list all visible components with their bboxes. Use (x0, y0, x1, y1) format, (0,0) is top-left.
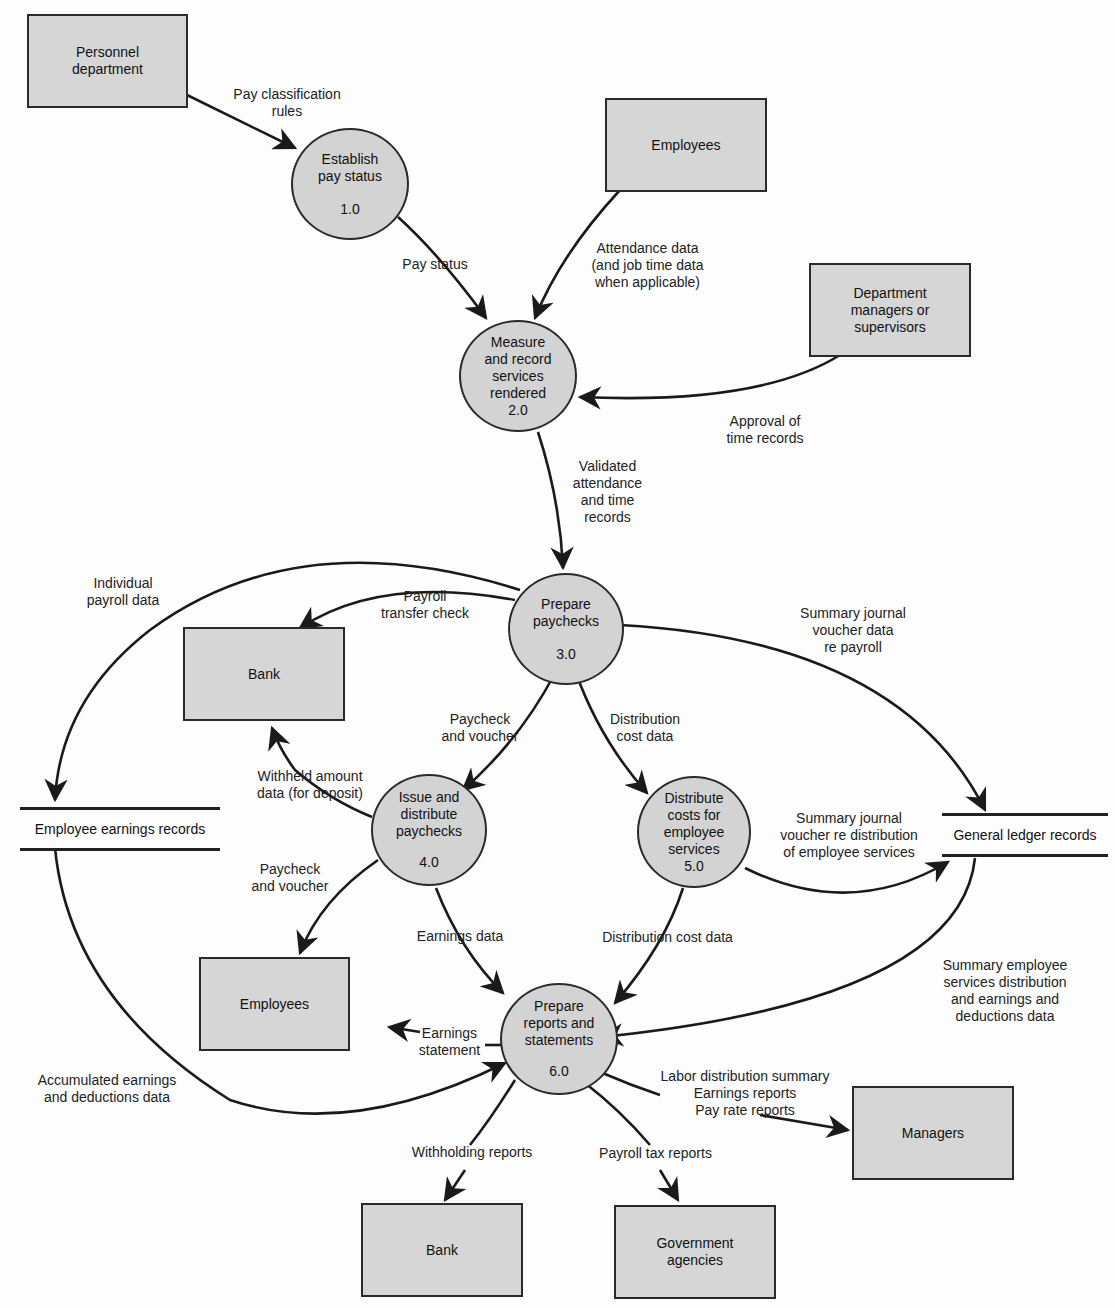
entity-bank-middle[interactable]: Bank (183, 627, 345, 721)
process-measure-record-services[interactable]: Measure and record services rendered 2.0 (459, 320, 577, 432)
flow-label-accumulated: Accumulated earnings and deductions data (22, 1072, 192, 1106)
flow-label-payroll-tax-reports: Payroll tax reports (583, 1145, 728, 1162)
entity-employees-bottom[interactable]: Employees (199, 957, 350, 1051)
process-prepare-reports-statements[interactable]: Prepare reports and statements 6.0 (500, 983, 618, 1095)
entity-label: Employees (651, 137, 720, 154)
flow-label-summary-journal-distribution: Summary journal voucher re distribution … (764, 810, 934, 861)
process-label: Issue and distribute paychecks (396, 789, 462, 840)
entity-employees-top[interactable]: Employees (605, 98, 767, 192)
flow-label-validated: Validated attendance and time records (560, 458, 655, 526)
process-number: 2.0 (508, 402, 527, 419)
entity-label: Government agencies (656, 1235, 733, 1269)
flow-label-paycheck-voucher-2: Paycheck and voucher (240, 861, 340, 895)
entity-managers[interactable]: Managers (852, 1086, 1014, 1180)
flow-label-distribution-cost-2: Distribution cost data (585, 929, 750, 946)
process-number: 3.0 (556, 646, 575, 663)
entity-label: Personnel department (72, 44, 143, 78)
flow-label-earnings-data: Earnings data (405, 928, 515, 945)
flow-label-individual-payroll: Individual payroll data (78, 575, 168, 609)
payroll-data-flow-diagram: Personnel department Employees Departmen… (0, 0, 1115, 1308)
process-label: Prepare paychecks (533, 596, 599, 630)
entity-label: Bank (426, 1242, 458, 1259)
flow-label-earnings-statement: Earnings statement (412, 1025, 487, 1059)
process-issue-distribute-paychecks[interactable]: Issue and distribute paychecks 4.0 (371, 774, 487, 886)
process-number: 6.0 (549, 1063, 568, 1080)
flow-label-summary-employee-services: Summary employee services distribution a… (925, 957, 1085, 1025)
entity-government-agencies[interactable]: Government agencies (614, 1205, 776, 1299)
process-number: 1.0 (340, 201, 359, 218)
entity-personnel-department[interactable]: Personnel department (27, 14, 188, 108)
flow-label-paycheck-voucher-1: Paycheck and voucher (430, 711, 530, 745)
process-number: 4.0 (419, 854, 438, 871)
entity-bank-bottom[interactable]: Bank (361, 1203, 523, 1297)
flow-label-pay-classification: Pay classification rules (222, 86, 352, 120)
entity-label: Department managers or supervisors (851, 285, 930, 336)
flow-label-summary-journal-payroll: Summary journal voucher data re payroll (783, 605, 923, 656)
entity-department-managers[interactable]: Department managers or supervisors (809, 263, 971, 357)
entity-label: Employees (240, 996, 309, 1013)
flow-label-distribution-cost-1: Distribution cost data (595, 711, 695, 745)
process-label: Distribute costs for employee services (664, 790, 725, 858)
process-number: 5.0 (684, 858, 703, 875)
flow-label-approval: Approval of time records (710, 413, 820, 447)
process-prepare-paychecks[interactable]: Prepare paychecks 3.0 (508, 573, 624, 685)
entity-label: Bank (248, 666, 280, 683)
flow-label-pay-status: Pay status (390, 256, 480, 273)
entity-label: Managers (902, 1125, 964, 1142)
store-general-ledger-records[interactable]: General ledger records (942, 813, 1108, 857)
process-label: Prepare reports and statements (524, 998, 595, 1049)
flow-label-attendance: Attendance data (and job time data when … (575, 240, 720, 291)
flow-label-withheld: Withheld amount data (for deposit) (245, 768, 375, 802)
store-employee-earnings-records[interactable]: Employee earnings records (20, 807, 220, 851)
flow-label-manager-reports: Labor distribution summary Earnings repo… (630, 1068, 860, 1119)
store-label: General ledger records (953, 827, 1096, 843)
flow-label-payroll-transfer: Payroll transfer check (370, 588, 480, 622)
process-label: Measure and record services rendered (485, 334, 552, 402)
process-distribute-costs[interactable]: Distribute costs for employee services 5… (637, 776, 751, 888)
store-label: Employee earnings records (35, 821, 205, 837)
flow-label-withholding-reports: Withholding reports (392, 1144, 552, 1161)
process-establish-pay-status[interactable]: Establish pay status 1.0 (291, 128, 409, 240)
process-label: Establish pay status (318, 151, 382, 185)
